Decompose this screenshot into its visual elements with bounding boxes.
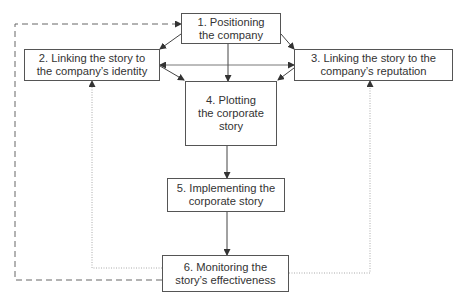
node-positioning: 1. Positioning the company xyxy=(181,13,281,44)
node-5-line-2: corporate story xyxy=(177,195,275,208)
node-1-line-2: the company xyxy=(197,29,264,42)
node-4-line-3: story xyxy=(198,120,264,133)
edge-1-to-3 xyxy=(281,34,294,49)
edge-1-to-2 xyxy=(160,34,181,49)
node-implementing: 5. Implementing the corporate story xyxy=(167,178,285,212)
edge-2-to-4 xyxy=(160,66,184,80)
edge-6-to-3-dotted xyxy=(289,81,370,273)
node-5-line-1: 5. Implementing the xyxy=(177,182,275,195)
node-3-line-1: 3. Linking the story to the xyxy=(311,52,436,65)
node-6-line-1: 6. Monitoring the xyxy=(175,261,275,274)
node-linking-reputation: 3. Linking the story to the company’s re… xyxy=(294,49,453,81)
node-3-line-2: company’s reputation xyxy=(311,65,436,78)
node-plotting: 4. Plotting the corporate story xyxy=(185,81,277,146)
edge-6-to-2-dotted xyxy=(92,81,162,268)
edge-3-to-4 xyxy=(278,68,294,80)
node-4-line-2: the corporate xyxy=(198,107,264,120)
node-6-line-2: story’s effectiveness xyxy=(175,274,275,287)
node-4-line-1: 4. Plotting xyxy=(198,94,264,107)
node-2-line-1: 2. Linking the story to xyxy=(37,52,148,65)
node-1-line-1: 1. Positioning xyxy=(197,16,264,29)
node-linking-identity: 2. Linking the story to the company’s id… xyxy=(24,49,160,81)
node-2-line-2: the company’s identity xyxy=(37,65,148,78)
node-monitoring: 6. Monitoring the story’s effectiveness xyxy=(162,255,289,292)
